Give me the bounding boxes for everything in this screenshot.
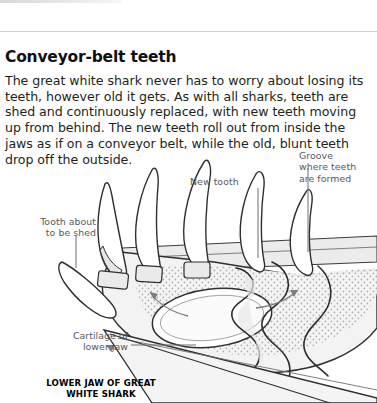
page-title: Conveyor-belt teeth [5,48,365,66]
tooth-right-a [240,172,264,272]
tooth-right-b [290,190,312,276]
tooth-mid-left [135,168,162,283]
tooth-root-mid-left [135,265,162,283]
tooth-root-left [97,270,129,289]
label-cartilage-of-lower-jaw: Cartilage of lower jaw [50,330,128,353]
diagram-caption: LOWER JAW OF GREAT WHITE SHARK [36,378,166,399]
header-divider [0,31,377,32]
tooth-outer-left [97,183,129,290]
label-tooth-about-to-be-shed: Tooth about to be shed [18,216,96,239]
label-new-tooth: New tooth [190,176,239,187]
new-tooth-root [184,262,210,278]
label-groove: Groove where teeth are formed [299,150,356,184]
window-top-tab [0,0,122,3]
